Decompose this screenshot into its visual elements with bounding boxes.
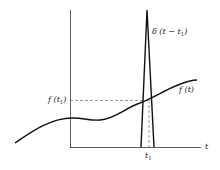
delta-label-text: δ (t − t: [152, 27, 181, 36]
f-t1-label-text: f (t: [48, 95, 60, 104]
t1-label-subscript: 1: [148, 155, 152, 161]
t-axis-label: t: [205, 143, 208, 151]
f-t-label-text: f (t): [179, 85, 194, 94]
f-t1-label-close: ): [63, 95, 66, 104]
f-t1-label: f (t1): [48, 96, 66, 105]
delta-label-close: ): [184, 27, 187, 36]
t1-tick-label: t1: [145, 152, 152, 161]
delta-label: δ (t − t1): [152, 28, 187, 37]
delta-sifting-diagram: δ (t − t1) f (t1) f (t) t t1: [0, 0, 220, 170]
t-axis-label-text: t: [205, 142, 208, 151]
f-t-curve: [15, 80, 197, 143]
f-t-label: f (t): [179, 86, 194, 94]
